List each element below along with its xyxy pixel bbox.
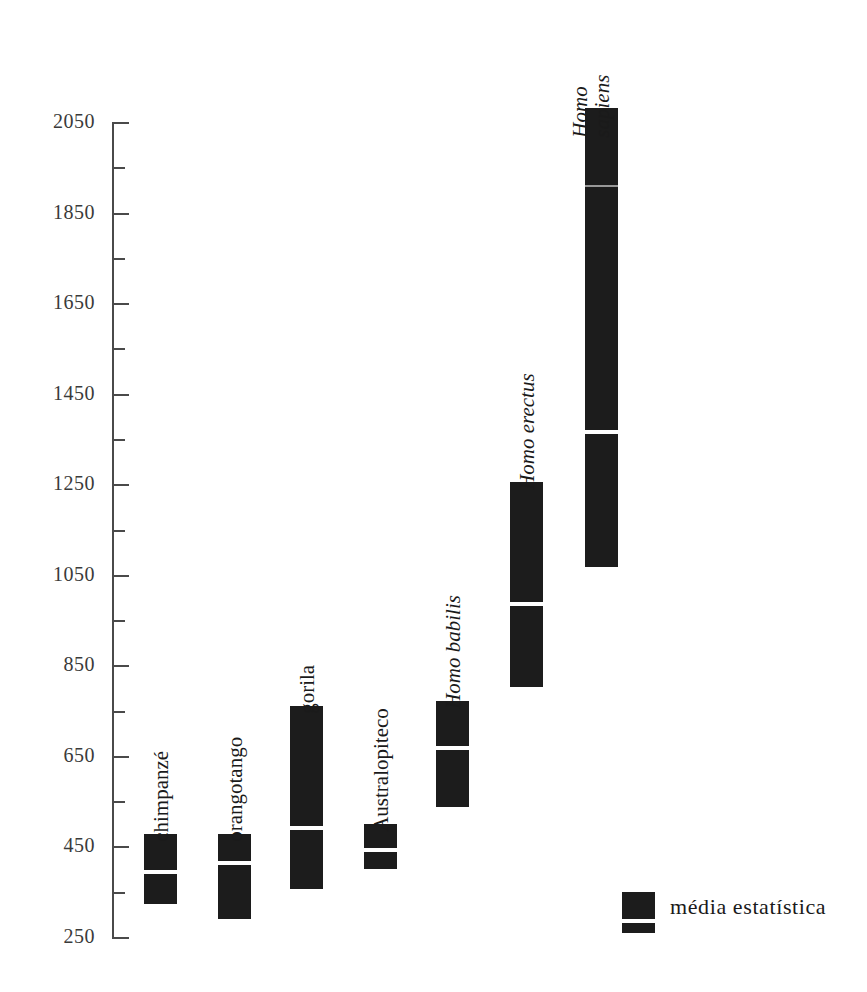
y-tick-label: 1450 [33,382,95,405]
bar-category-label: Homo babilis [443,595,465,709]
y-tick-major [112,122,129,124]
bar-range [436,701,469,807]
y-tick-major [112,665,129,667]
bar-category-label: gorila [297,665,319,714]
bar-category-label: Homo sapiens [570,75,614,138]
bar-mean-line [585,430,618,434]
bar-group [585,108,618,567]
bar-group [436,701,469,807]
bar-group [144,834,177,904]
legend-label: média estatística [670,894,826,920]
y-tick-minor [112,439,125,441]
bar-range [585,108,618,567]
bar-category-label: orangotango [225,737,247,842]
y-tick-label: 650 [33,744,95,767]
bar-range [218,834,251,919]
y-tick-minor [112,801,125,803]
y-tick-label: 450 [33,834,95,857]
y-tick-minor [112,167,125,169]
bar-mean-line [436,746,469,750]
y-tick-minor [112,258,125,260]
y-tick-major [112,846,129,848]
bar-category-label: Homo erectus [517,373,539,489]
bar-group [290,706,323,889]
y-tick-minor [112,530,125,532]
y-tick-label: 1650 [33,291,95,314]
legend-swatch [622,892,655,933]
y-tick-minor [112,711,125,713]
bar-category-label: Australopiteco [371,708,393,832]
y-tick-minor [112,348,125,350]
y-tick-label: 1250 [33,472,95,495]
y-tick-major [112,303,129,305]
bar-group [510,482,543,687]
y-tick-major [112,394,129,396]
bar-mean-line [510,602,543,606]
bar-range [510,482,543,687]
y-tick-major [112,937,129,939]
bar-category-label: chimpanzé [151,751,173,842]
bar-range [290,706,323,889]
chart-page: 205018501650145012501050850650450250 chi… [0,0,867,992]
y-tick-label: 250 [33,925,95,948]
legend-mean-line-icon [622,919,655,923]
y-tick-major [112,756,129,758]
y-tick-major [112,575,129,577]
bar-range [144,834,177,904]
chart-plot-area: 205018501650145012501050850650450250 chi… [0,0,867,992]
y-tick-label: 850 [33,653,95,676]
y-tick-major [112,213,129,215]
bar-mean-line [290,826,323,830]
y-tick-minor [112,892,125,894]
y-tick-label: 1050 [33,563,95,586]
y-tick-label: 2050 [33,110,95,133]
bar-mean-line [218,861,251,865]
bar-mean-line [364,848,397,852]
bar-scan-seam [585,185,618,187]
bar-mean-line [144,870,177,874]
y-tick-major [112,484,129,486]
y-tick-label: 1850 [33,201,95,224]
y-tick-minor [112,620,125,622]
bar-group [218,834,251,919]
